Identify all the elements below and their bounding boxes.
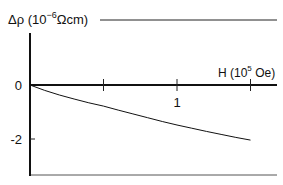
y-tick-labels: 0-2 — [10, 78, 35, 147]
x-tick-labels: 1 — [173, 95, 180, 110]
x-axis-label: H (105 Oe) — [218, 64, 275, 80]
series-line — [30, 85, 251, 140]
y-axis-label: Δρ (10−6Ωcm) — [8, 10, 88, 27]
y-tick-label: 0 — [15, 78, 22, 93]
x-tick-label: 1 — [173, 95, 180, 110]
series-group — [30, 85, 251, 140]
y-tick-label: -2 — [10, 132, 22, 147]
chart: Δρ (10−6Ωcm) H (105 Oe) 1 0-2 — [0, 0, 283, 185]
